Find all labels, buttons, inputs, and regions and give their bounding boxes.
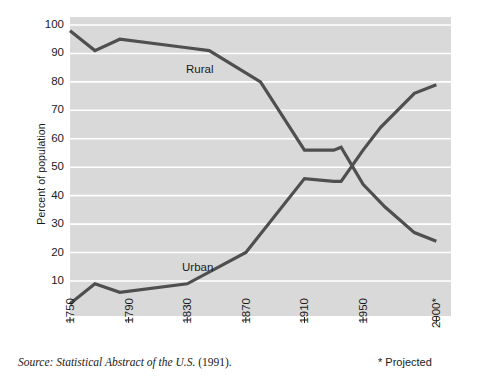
- source-note-year-value: (1991).: [198, 356, 232, 368]
- x-tick-label-1910: 1910: [298, 298, 310, 358]
- source-note-text: Source: Statistical Abstract of the U.S.: [18, 356, 195, 368]
- x-tick-label-1870: 1870: [240, 298, 252, 358]
- series-label-urban: Urban: [182, 261, 213, 273]
- source-note: Source: Statistical Abstract of the U.S.…: [18, 356, 232, 368]
- x-tick-label-1790: 1790: [123, 298, 135, 358]
- y-axis-title: Percent of population: [35, 89, 47, 259]
- x-tick-label-1750: 1750: [64, 298, 76, 358]
- x-tick-label-1830: 1830: [181, 298, 193, 358]
- series-label-rural: Rural: [186, 63, 213, 75]
- x-tick-label-1950: 1950: [357, 298, 369, 358]
- chart-figure: 102030405060708090100 175017901830187019…: [0, 0, 478, 386]
- x-tick-label-2000-projected: 2000*: [430, 298, 442, 358]
- x-tick-label-group: 1750179018301870191019502000*: [0, 0, 478, 386]
- projected-note: * Projected: [378, 356, 432, 368]
